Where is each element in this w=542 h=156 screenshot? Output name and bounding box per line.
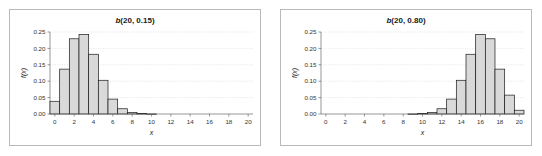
bar xyxy=(60,69,70,114)
right-chart-svg: 0.000.050.100.150.200.250246810121416182… xyxy=(281,10,532,146)
x-tick-label: 14 xyxy=(458,118,465,125)
bar xyxy=(495,69,505,114)
left-chart-svg: 0.000.050.100.150.200.250246810121416182… xyxy=(10,10,261,146)
x-tick-label: 8 xyxy=(130,118,134,125)
y-tick-label: 0.15 xyxy=(304,61,317,68)
bar xyxy=(50,101,60,114)
x-tick-label: 2 xyxy=(72,118,76,125)
x-tick-label: 8 xyxy=(401,118,405,125)
bar xyxy=(89,54,99,114)
right-panel: b(20, 0.80) 0.000.050.100.150.200.250246… xyxy=(271,0,542,156)
x-tick-label: 10 xyxy=(148,118,155,125)
bar xyxy=(476,34,486,114)
x-axis-label: x xyxy=(149,129,154,136)
left-plot-area: 0.000.050.100.150.200.250246810121416182… xyxy=(10,10,260,145)
x-tick-label: 16 xyxy=(477,118,484,125)
y-tick-label: 0.25 xyxy=(304,28,317,35)
binomial-distributions-figure: b(20, 0.15) 0.000.050.100.150.200.250246… xyxy=(0,0,542,156)
bar xyxy=(108,99,118,114)
x-tick-label: 10 xyxy=(419,118,426,125)
y-tick-label: 0.05 xyxy=(304,94,317,101)
x-tick-label: 6 xyxy=(382,118,386,125)
x-axis-label: x xyxy=(420,129,425,136)
bar xyxy=(466,54,476,114)
bar xyxy=(79,34,89,114)
x-tick-label: 2 xyxy=(343,118,347,125)
x-tick-label: 20 xyxy=(245,118,252,125)
x-tick-label: 14 xyxy=(187,118,194,125)
x-tick-label: 0 xyxy=(53,118,57,125)
y-tick-label: 0.15 xyxy=(33,61,46,68)
x-tick-label: 0 xyxy=(324,118,328,125)
y-axis-label: f(x) xyxy=(291,68,299,78)
x-tick-label: 4 xyxy=(363,118,367,125)
bar xyxy=(437,109,447,114)
y-tick-label: 0.25 xyxy=(33,28,46,35)
x-tick-label: 12 xyxy=(167,118,174,125)
x-tick-label: 18 xyxy=(225,118,232,125)
bar xyxy=(456,80,466,114)
right-panel-frame: b(20, 0.80) 0.000.050.100.150.200.250246… xyxy=(280,9,532,146)
x-tick-label: 4 xyxy=(92,118,96,125)
x-tick-label: 16 xyxy=(206,118,213,125)
y-tick-label: 0.10 xyxy=(304,77,317,84)
bar xyxy=(505,95,515,114)
x-tick-label: 6 xyxy=(111,118,115,125)
y-tick-label: 0.05 xyxy=(33,94,46,101)
x-tick-label: 18 xyxy=(496,118,503,125)
bar xyxy=(447,99,457,114)
y-tick-label: 0.00 xyxy=(33,110,46,117)
y-tick-label: 0.20 xyxy=(304,45,317,52)
y-tick-label: 0.20 xyxy=(33,45,46,52)
x-tick-label: 20 xyxy=(516,118,523,125)
bar xyxy=(514,110,524,114)
bar xyxy=(118,109,128,114)
left-panel-frame: b(20, 0.15) 0.000.050.100.150.200.250246… xyxy=(9,9,261,146)
bar xyxy=(98,80,108,114)
bar xyxy=(485,39,495,114)
y-tick-label: 0.10 xyxy=(33,77,46,84)
x-tick-label: 12 xyxy=(438,118,445,125)
left-panel: b(20, 0.15) 0.000.050.100.150.200.250246… xyxy=(0,0,271,156)
y-tick-label: 0.00 xyxy=(304,110,317,117)
bar xyxy=(69,39,79,114)
y-axis-label: f(x) xyxy=(20,68,28,78)
right-plot-area: 0.000.050.100.150.200.250246810121416182… xyxy=(281,10,531,145)
